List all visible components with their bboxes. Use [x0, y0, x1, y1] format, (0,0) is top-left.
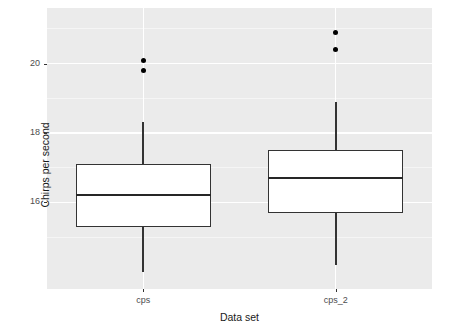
x-tick-mark — [143, 289, 144, 292]
x-tick-label-cps: cps — [136, 295, 150, 305]
outlier-point — [333, 30, 338, 35]
y-tick-mark — [44, 64, 47, 65]
gridline-minor-y — [47, 28, 432, 29]
y-tick-label: 18 — [30, 127, 40, 137]
whisker-lower — [142, 227, 144, 272]
whisker-lower — [335, 213, 337, 265]
outlier-point — [333, 47, 338, 52]
plot-panel — [47, 8, 432, 289]
y-tick-label: 20 — [30, 58, 40, 68]
x-axis-title: Data set — [47, 311, 432, 323]
gridline-major-y — [47, 63, 432, 64]
x-tick-mark — [336, 289, 337, 292]
y-tick-label: 16 — [30, 196, 40, 206]
x-tick-label-cps_2: cps_2 — [324, 295, 348, 305]
outlier-point — [141, 68, 146, 73]
y-axis-title: Chirps per second — [39, 122, 51, 207]
median-line-cps_2 — [268, 177, 403, 179]
whisker-upper — [335, 102, 337, 151]
y-tick-mark — [44, 133, 47, 134]
median-line-cps — [76, 194, 211, 196]
gridline-minor-y — [47, 237, 432, 238]
y-tick-mark — [44, 202, 47, 203]
whisker-upper — [142, 122, 144, 164]
boxplot-figure: Chirps per second Data set 161820 cpscps… — [0, 0, 454, 330]
box-cps_2 — [268, 150, 403, 212]
gridline-major-y — [47, 132, 432, 133]
gridline-minor-y — [47, 98, 432, 99]
outlier-point — [141, 58, 146, 63]
